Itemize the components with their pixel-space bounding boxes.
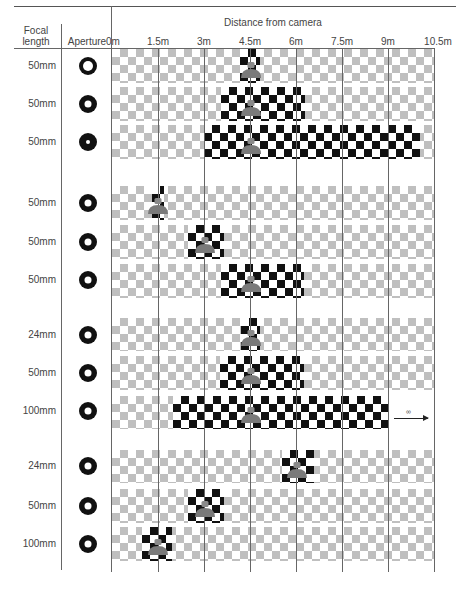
aperture-narrow-icon xyxy=(79,133,97,151)
aperture-medium-icon xyxy=(79,95,97,113)
focal-length-label: 50mm xyxy=(12,197,56,209)
person-icon xyxy=(194,501,216,517)
focal-length-label: 50mm xyxy=(12,136,56,148)
in-focus-band xyxy=(220,356,304,390)
gridline-7.5m xyxy=(342,48,343,572)
person-icon xyxy=(240,138,262,154)
aperture-medium-icon xyxy=(79,233,97,251)
column-divider-focal xyxy=(61,24,62,570)
aperture-medium-icon xyxy=(79,271,97,289)
tick-9m: 9m xyxy=(368,36,408,47)
infinity-label: ∞ xyxy=(406,408,411,416)
tick-10.5m: 10.5m xyxy=(418,36,458,47)
aperture-medium-icon xyxy=(79,326,97,344)
blurred-band xyxy=(112,489,434,523)
person-icon xyxy=(240,276,262,292)
person-icon xyxy=(240,368,262,384)
aperture-medium-icon xyxy=(79,497,97,515)
gridline-3m xyxy=(204,48,205,572)
person-icon xyxy=(240,330,262,346)
person-icon xyxy=(286,462,308,478)
blurred-band xyxy=(112,49,434,83)
tick-7.5m: 7.5m xyxy=(322,36,362,47)
focal-length-header: Focal length xyxy=(14,25,58,47)
gridline-1.5m xyxy=(158,48,159,572)
focal-length-label: 100mm xyxy=(12,405,56,417)
person-icon xyxy=(147,198,169,214)
focal-length-label: 50mm xyxy=(12,500,56,512)
focal-length-label: 50mm xyxy=(12,98,56,110)
person-icon xyxy=(147,539,169,555)
blurred-band xyxy=(112,450,434,483)
in-focus-band xyxy=(221,87,305,121)
aperture-medium-icon xyxy=(79,535,97,553)
aperture-wide-icon xyxy=(79,57,97,75)
infinity-arrow-icon xyxy=(394,418,428,419)
header-divider xyxy=(14,48,112,49)
blurred-band xyxy=(112,318,434,351)
focal-length-header-line1: Focal xyxy=(14,25,58,36)
tick-3m: 3m xyxy=(184,36,224,47)
gridline-10.5m xyxy=(434,48,435,572)
focal-length-label: 50mm xyxy=(12,274,56,286)
person-icon xyxy=(240,62,262,78)
gridline-6m xyxy=(296,48,297,572)
blurred-band xyxy=(112,396,173,429)
focal-length-label: 100mm xyxy=(12,538,56,550)
aperture-header: Aperture xyxy=(62,36,112,47)
blurred-band xyxy=(112,225,434,259)
top-rule xyxy=(14,6,456,7)
focal-length-label: 24mm xyxy=(12,329,56,341)
focal-length-label: 50mm xyxy=(12,236,56,248)
aperture-medium-icon xyxy=(79,364,97,382)
person-icon xyxy=(194,237,216,253)
person-icon xyxy=(240,407,262,423)
in-focus-band xyxy=(221,264,304,298)
in-focus-band xyxy=(173,396,388,429)
focal-length-label: 24mm xyxy=(12,460,56,472)
focal-length-header-line2: length xyxy=(14,36,58,47)
aperture-medium-icon xyxy=(79,402,97,420)
gridline-4.5m xyxy=(250,48,251,572)
aperture-medium-icon xyxy=(79,194,97,212)
tick-4.5m: 4.5m xyxy=(230,36,270,47)
distance-header: Distance from camera xyxy=(112,17,434,28)
gridline-9m xyxy=(388,48,389,572)
focal-length-label: 50mm xyxy=(12,60,56,72)
aperture-medium-icon xyxy=(79,457,97,475)
person-icon xyxy=(240,100,262,116)
tick-1.5m: 1.5m xyxy=(138,36,178,47)
focal-length-label: 50mm xyxy=(12,367,56,379)
tick-6m: 6m xyxy=(276,36,316,47)
